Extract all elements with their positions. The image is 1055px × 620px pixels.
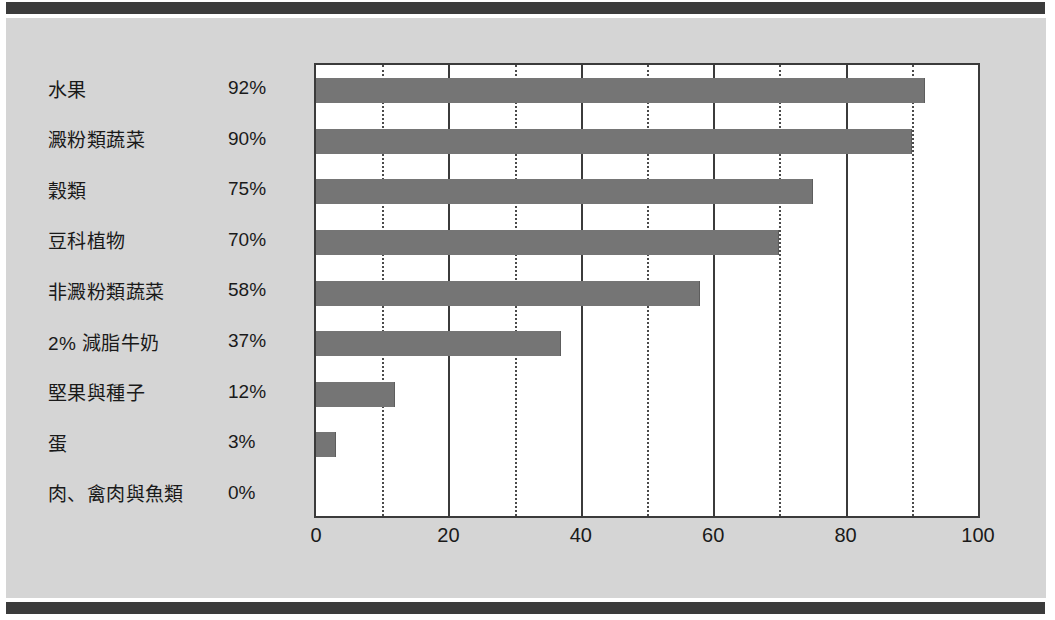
category-value-label: 3% — [228, 431, 255, 453]
category-name: 穀類 — [48, 176, 87, 203]
category-row: 蛋3% — [42, 417, 308, 468]
category-value-label: 70% — [228, 229, 266, 251]
x-tick-label: 40 — [570, 524, 592, 547]
category-value-label: 0% — [228, 482, 255, 504]
gridline-minor — [912, 65, 914, 516]
bar — [316, 179, 813, 204]
category-name: 堅果與種子 — [48, 378, 145, 405]
bar — [316, 230, 779, 255]
category-name: 2% 減脂牛奶 — [48, 328, 160, 355]
bar — [316, 281, 700, 306]
category-row: 堅果與種子12% — [42, 366, 308, 417]
bar — [316, 78, 925, 103]
category-row: 澱粉類蔬菜90% — [42, 114, 308, 165]
bar — [316, 382, 395, 407]
category-row: 肉、禽肉與魚類0% — [42, 467, 308, 518]
category-name: 蛋 — [48, 429, 67, 456]
plot-frame — [314, 63, 980, 518]
x-tick-label: 100 — [961, 524, 994, 547]
x-tick-label: 20 — [437, 524, 459, 547]
category-row: 穀類75% — [42, 164, 308, 215]
category-name: 豆科植物 — [48, 226, 126, 253]
category-name: 澱粉類蔬菜 — [48, 125, 145, 152]
category-value-label: 58% — [228, 279, 266, 301]
category-name: 肉、禽肉與魚類 — [48, 479, 184, 506]
plot-inner — [316, 65, 978, 516]
category-value-label: 92% — [228, 77, 266, 99]
category-name: 水果 — [48, 75, 87, 102]
category-row: 水果92% — [42, 63, 308, 114]
category-row: 豆科植物70% — [42, 215, 308, 266]
bottom-rule — [6, 602, 1045, 614]
chart-page: 水果92%澱粉類蔬菜90%穀類75%豆科植物70%非澱粉類蔬菜58%2% 減脂牛… — [0, 0, 1055, 620]
category-name: 非澱粉類蔬菜 — [48, 277, 164, 304]
bar — [316, 331, 561, 356]
x-axis-tick-labels: 020406080100 — [314, 524, 980, 554]
category-row: 非澱粉類蔬菜58% — [42, 265, 308, 316]
category-value-label: 37% — [228, 330, 266, 352]
category-value-label: 12% — [228, 381, 266, 403]
category-value-label: 75% — [228, 178, 266, 200]
category-label-column: 水果92%澱粉類蔬菜90%穀類75%豆科植物70%非澱粉類蔬菜58%2% 減脂牛… — [42, 63, 308, 518]
category-row: 2% 減脂牛奶37% — [42, 316, 308, 367]
x-tick-label: 60 — [702, 524, 724, 547]
x-tick-label: 0 — [310, 524, 321, 547]
bar — [316, 432, 336, 457]
bar — [316, 129, 912, 154]
x-tick-label: 80 — [834, 524, 856, 547]
top-rule — [6, 2, 1045, 14]
category-value-label: 90% — [228, 128, 266, 150]
